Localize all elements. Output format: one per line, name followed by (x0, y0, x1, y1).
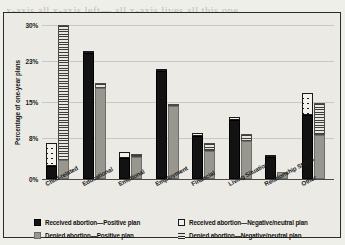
bar-denied[interactable] (314, 103, 325, 179)
chart-figure: Percentage of one-year plans 0%8%15%23%3… (3, 12, 341, 238)
chart-legend: Received abortion—Positive planReceived … (34, 216, 340, 242)
bar-segment-received_positive (302, 115, 313, 179)
bar-received[interactable] (83, 51, 94, 179)
legend-swatch-cross-icon (178, 219, 185, 226)
legend-swatch-black-icon (34, 219, 41, 226)
bar-segment-received_positive (192, 136, 203, 179)
bar-segment-denied_positive (95, 88, 106, 179)
bar-segment-received_negative (302, 93, 313, 115)
bar-received[interactable] (156, 69, 167, 179)
legend-item[interactable]: Received abortion—Negative/neutral plan (178, 219, 340, 226)
x-axis-labels: Child-relatedEducationalEmotionalEmploym… (42, 181, 334, 219)
bar-group (302, 25, 339, 179)
bar-segment-denied_negative (58, 25, 69, 160)
legend-swatch-hatch-icon (178, 232, 185, 239)
bar-denied[interactable] (58, 25, 69, 179)
bar-group (83, 25, 120, 179)
bar-groups (42, 25, 334, 179)
y-tick-label: 8% (29, 134, 38, 141)
bar-received[interactable] (229, 117, 240, 179)
bar-group (46, 25, 83, 179)
y-tick-label: 0% (29, 176, 38, 183)
y-axis-title-text: Percentage of one-year plans (15, 59, 22, 144)
bar-segment-received_negative (46, 143, 57, 166)
bar-segment-received_positive (83, 53, 94, 179)
bar-segment-denied_negative (241, 134, 252, 141)
bar-segment-received_positive (156, 71, 167, 179)
legend-label: Received abortion—Positive plan (45, 219, 140, 226)
bar-group (229, 25, 266, 179)
bar-group (192, 25, 229, 179)
y-axis-title: Percentage of one-year plans (13, 27, 23, 177)
legend-label: Denied abortion—Positive plan (45, 232, 134, 239)
y-tick-label: 23% (26, 57, 38, 64)
legend-label: Denied abortion—Negative/neutral plan (189, 232, 301, 239)
bar-received[interactable] (192, 133, 203, 179)
legend-item[interactable]: Denied abortion—Negative/neutral plan (178, 232, 340, 239)
legend-swatch-gray-icon (34, 232, 41, 239)
y-tick-label: 15% (26, 99, 38, 106)
legend-label: Received abortion—Negative/neutral plan (189, 219, 308, 226)
legend-item[interactable]: Denied abortion—Positive plan (34, 232, 178, 239)
bar-segment-denied_negative (204, 143, 215, 152)
bar-segment-denied_negative (314, 103, 325, 135)
bar-group (156, 25, 193, 179)
bar-segment-denied_positive (314, 135, 325, 179)
bar-segment-received_positive (229, 120, 240, 179)
bar-denied[interactable] (95, 83, 106, 179)
y-tick-label: 30% (26, 22, 38, 29)
bar-group (119, 25, 156, 179)
legend-item[interactable]: Received abortion—Positive plan (34, 219, 178, 226)
bar-group (265, 25, 302, 179)
